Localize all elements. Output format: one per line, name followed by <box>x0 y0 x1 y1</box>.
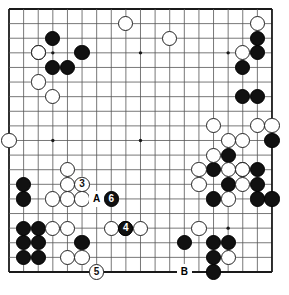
move-number-4: 4 <box>118 221 133 236</box>
stone-white[interactable] <box>31 74 46 89</box>
stone-black[interactable] <box>264 191 279 206</box>
star-point <box>139 139 142 142</box>
star-point <box>51 139 54 142</box>
stone-black[interactable] <box>250 177 265 192</box>
go-board-grid[interactable] <box>0 0 289 295</box>
stone-white[interactable] <box>60 221 75 236</box>
star-point <box>226 51 229 54</box>
stone-black[interactable] <box>206 250 221 265</box>
stone-black[interactable] <box>221 148 236 163</box>
point-label-a: A <box>89 191 104 206</box>
stone-white[interactable] <box>133 221 148 236</box>
point-label-b: B <box>177 264 192 279</box>
stone-white[interactable] <box>60 250 75 265</box>
stone-white[interactable] <box>104 221 119 236</box>
go-board-diagram: 3456AB <box>0 0 289 295</box>
stone-black[interactable] <box>206 191 221 206</box>
stone-white[interactable] <box>191 221 206 236</box>
star-point <box>226 226 229 229</box>
stone-black[interactable] <box>221 177 236 192</box>
stone-black[interactable] <box>264 133 279 148</box>
move-number-3: 3 <box>74 177 89 192</box>
stone-black[interactable] <box>221 235 236 250</box>
stone-black[interactable] <box>250 191 265 206</box>
stone-black[interactable] <box>60 60 75 75</box>
stone-white[interactable] <box>191 162 206 177</box>
stone-white[interactable] <box>191 177 206 192</box>
star-point <box>139 51 142 54</box>
star-point <box>51 51 54 54</box>
stone-white[interactable] <box>45 221 60 236</box>
stone-black[interactable] <box>16 250 31 265</box>
stone-white[interactable] <box>206 148 221 163</box>
stone-black[interactable] <box>74 235 89 250</box>
stone-black[interactable] <box>74 45 89 60</box>
stone-white[interactable] <box>74 250 89 265</box>
stone-black[interactable] <box>250 31 265 46</box>
stone-white[interactable] <box>221 191 236 206</box>
stone-white[interactable] <box>162 31 177 46</box>
stone-white[interactable] <box>45 191 60 206</box>
stone-black[interactable] <box>16 191 31 206</box>
stone-black[interactable] <box>16 221 31 236</box>
stone-black[interactable] <box>16 177 31 192</box>
stone-white[interactable] <box>221 133 236 148</box>
move-number-6: 6 <box>104 191 119 206</box>
stone-black[interactable] <box>31 221 46 236</box>
stone-white[interactable] <box>1 133 16 148</box>
stone-black[interactable] <box>206 264 221 279</box>
stone-white[interactable] <box>60 191 75 206</box>
stone-white[interactable] <box>221 162 236 177</box>
stone-white[interactable] <box>74 191 89 206</box>
stone-black[interactable] <box>31 250 46 265</box>
stone-black[interactable] <box>31 235 46 250</box>
move-number-5: 5 <box>89 264 104 279</box>
stone-white[interactable] <box>250 16 265 31</box>
stone-white[interactable] <box>264 118 279 133</box>
stone-white[interactable] <box>60 177 75 192</box>
stone-white[interactable] <box>221 250 236 265</box>
